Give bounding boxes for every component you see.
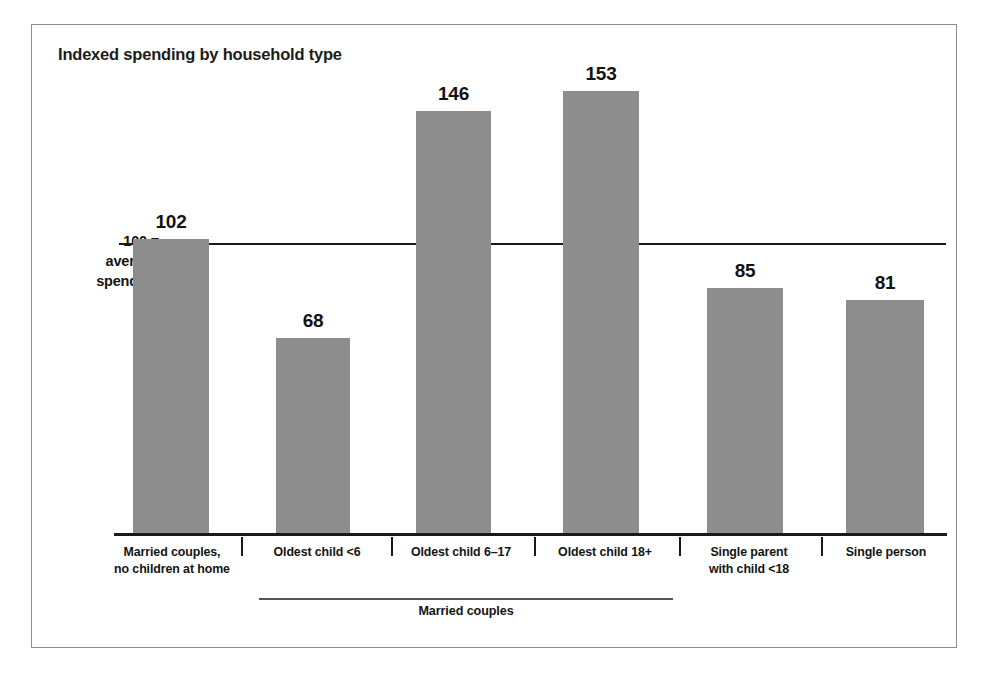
bar-oldest-child-6-17 [416,111,491,535]
bar-married-no-children [133,239,209,535]
category-label-married-no-children: Married couples, no children at home [87,544,257,578]
group-bracket-label: Married couples [259,604,673,618]
bar-value-label: 81 [846,272,924,294]
category-label-line: Oldest child 6–17 [387,544,535,561]
group-bracket-line [259,598,673,600]
category-label-single-parent: Single parent with child <18 [678,544,820,578]
bar-value-label: 153 [563,63,639,85]
category-label-single-person: Single person [820,544,952,561]
category-label-oldest-child-under-6: Oldest child <6 [243,544,391,561]
plot-area: 100 = average spending 102 68 146 153 85… [32,25,958,649]
x-axis-baseline [114,533,947,536]
reference-line-100 [119,243,946,245]
category-label-line: Married couples, [87,544,257,561]
category-label-line: with child <18 [678,561,820,578]
category-label-oldest-child-18-plus: Oldest child 18+ [531,544,679,561]
category-label-line: Oldest child 18+ [531,544,679,561]
bar-single-parent-child-under-18 [707,288,783,535]
category-label-line: no children at home [87,561,257,578]
bar-value-label: 68 [276,310,350,332]
bar-value-label: 102 [133,211,209,233]
category-label-line: Single parent [678,544,820,561]
bar-single-person [846,300,924,535]
bar-oldest-child-18-plus [563,91,639,535]
category-label-oldest-child-6-17: Oldest child 6–17 [387,544,535,561]
bar-value-label: 146 [416,83,491,105]
category-label-line: Single person [820,544,952,561]
bar-oldest-child-under-6 [276,338,350,535]
category-label-line: Oldest child <6 [243,544,391,561]
bar-value-label: 85 [707,260,783,282]
chart-figure: Indexed spending by household type 100 =… [31,24,957,648]
